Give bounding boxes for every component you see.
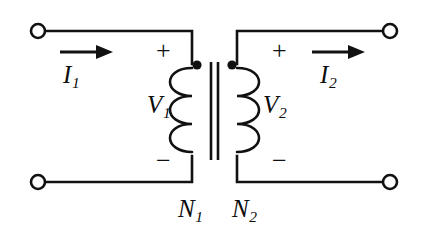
label-primary-current-symbol: I [63, 61, 71, 88]
terminal-primary-top[interactable] [31, 24, 45, 38]
secondary-coil-path [237, 68, 259, 152]
secondary-current-arrow [312, 45, 365, 59]
label-primary-voltage: V1 [147, 92, 170, 117]
label-primary-voltage-subscript: 1 [163, 104, 171, 121]
polarity-minus-secondary: − [272, 148, 287, 174]
polarity-plus-secondary: + [272, 38, 287, 64]
primary-arrow-head [96, 45, 113, 59]
polarity-dots [192, 60, 236, 69]
label-secondary-turns-symbol: N [232, 195, 249, 222]
primary-coil-path [170, 68, 192, 152]
circuit-schematic-svg [0, 0, 424, 231]
primary-winding-coil [170, 68, 192, 152]
secondary-bottom-wire [237, 156, 383, 182]
terminal-circles [31, 24, 397, 189]
secondary-top-wire [237, 31, 383, 64]
secondary-winding-coil [237, 68, 259, 152]
label-secondary-current: I2 [320, 62, 336, 87]
label-secondary-voltage: V2 [263, 92, 286, 117]
terminal-secondary-bottom[interactable] [383, 175, 397, 189]
transformer-diagram: I1 I2 V1 V2 N1 N2 + − + − [0, 0, 424, 231]
label-primary-current-subscript: 1 [72, 74, 80, 91]
current-arrows [60, 45, 365, 59]
label-secondary-turns-subscript: 2 [249, 208, 257, 225]
label-primary-voltage-symbol: V [147, 91, 162, 118]
label-secondary-voltage-subscript: 2 [279, 104, 287, 121]
label-secondary-voltage-symbol: V [263, 91, 278, 118]
terminal-primary-bottom[interactable] [31, 175, 45, 189]
label-primary-turns: N1 [178, 196, 202, 221]
label-secondary-turns: N2 [232, 196, 256, 221]
transformer-core [211, 62, 218, 160]
label-primary-current: I1 [63, 62, 79, 87]
label-primary-turns-subscript: 1 [195, 208, 203, 225]
secondary-polarity-dot [227, 60, 236, 69]
label-secondary-current-symbol: I [320, 61, 328, 88]
polarity-minus-primary: − [156, 148, 171, 174]
polarity-plus-primary: + [156, 38, 171, 64]
primary-polarity-dot [192, 60, 201, 69]
label-primary-turns-symbol: N [178, 195, 195, 222]
label-secondary-current-subscript: 2 [329, 74, 337, 91]
primary-current-arrow [60, 45, 113, 59]
terminal-secondary-top[interactable] [383, 24, 397, 38]
secondary-arrow-head [348, 45, 365, 59]
